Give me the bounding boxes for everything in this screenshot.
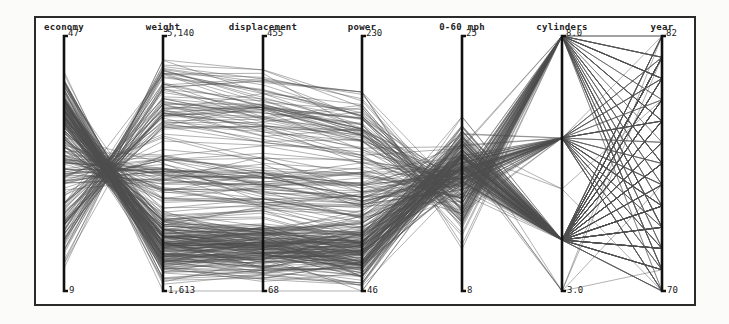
axis-max-label: 5,140 [167,28,194,38]
axis-year [662,36,666,291]
parallel-coordinates-plot [0,0,729,324]
axis-title: 0-60 mph [439,22,485,32]
axis-max-label: 25 [466,28,477,38]
axis-max-label: 47 [68,28,79,38]
axis-max-label: 230 [366,28,382,38]
axis-max-label: 8.0 [566,28,582,38]
axis-max-label: 455 [267,28,283,38]
axis-cylinders [562,36,566,291]
axis-min-label: 3.0 [567,285,583,295]
axis-min-label: 1,613 [168,285,195,295]
axis-min-label: 68 [268,285,279,295]
axis-min-label: 46 [367,285,378,295]
axis-min-label: 70 [667,285,678,295]
axis-title: displacement [229,22,298,32]
axis-max-label: 82 [666,28,677,38]
axis-min-label: 9 [69,285,74,295]
axis-min-label: 8 [467,285,472,295]
